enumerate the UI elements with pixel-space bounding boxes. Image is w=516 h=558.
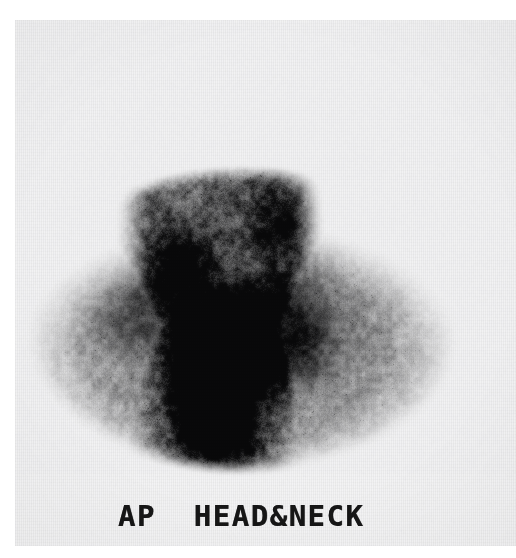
scan-viewer: AP HEAD&NECK [0,0,516,558]
radiographic-film-sheet: AP HEAD&NECK [15,20,516,546]
annotation-label: AP HEAD&NECK [118,502,364,531]
scintigram-image [15,20,516,546]
scintigram-canvas [15,20,516,546]
